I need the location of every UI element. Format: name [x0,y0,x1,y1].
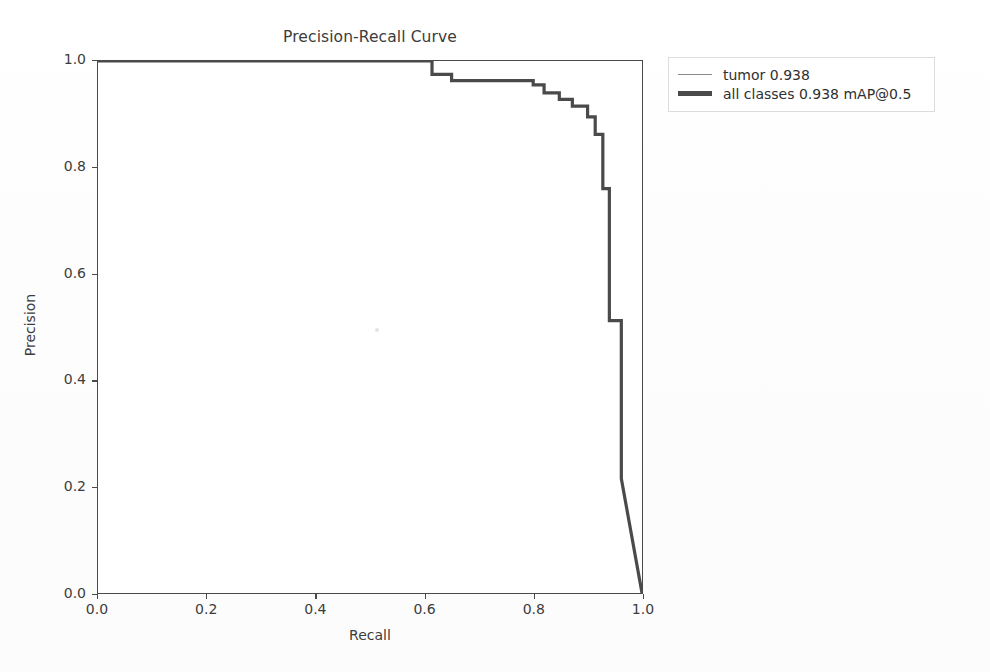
legend-line-icon-tumor [678,74,712,76]
x-tick-label: 0.0 [67,601,127,617]
y-tick-mark [92,594,97,595]
x-tick-mark [97,594,98,599]
x-tick-label: 1.0 [613,601,673,617]
legend-label-tumor: tumor 0.938 [723,67,810,83]
y-tick-mark [92,167,97,168]
curve-all-classes [98,61,642,593]
x-tick-mark [643,594,644,599]
x-tick-label: 0.2 [176,601,236,617]
y-axis-label: Precision [22,255,38,395]
legend-label-all-classes: all classes 0.938 mAP@0.5 [723,86,911,102]
page-title: Precision-Recall Curve [97,28,643,46]
precision-recall-figure: Precision-Recall Curve 0.00.20.40.60.81.… [0,0,990,672]
x-tick-label: 0.8 [504,601,564,617]
x-tick-mark [425,594,426,599]
y-tick-mark [92,487,97,488]
legend-item-all-classes: all classes 0.938 mAP@0.5 [678,84,925,103]
plot-area [97,60,643,594]
x-tick-mark [315,594,316,599]
y-tick-label: 1.0 [22,51,86,67]
curve-tumor [98,61,642,593]
y-tick-label: 0.8 [22,158,86,174]
x-tick-label: 0.6 [395,601,455,617]
legend: tumor 0.938 all classes 0.938 mAP@0.5 [668,57,935,112]
legend-item-tumor: tumor 0.938 [678,65,925,84]
x-tick-label: 0.4 [285,601,345,617]
y-tick-label: 0.0 [22,585,86,601]
scan-speck [375,328,379,332]
legend-line-icon-all-classes [678,91,712,95]
y-tick-mark [92,380,97,381]
x-tick-mark [206,594,207,599]
y-tick-label: 0.2 [22,478,86,494]
x-axis-label: Recall [97,627,643,643]
x-tick-mark [534,594,535,599]
y-tick-mark [92,274,97,275]
y-tick-mark [92,60,97,61]
curve-svg [98,61,642,593]
